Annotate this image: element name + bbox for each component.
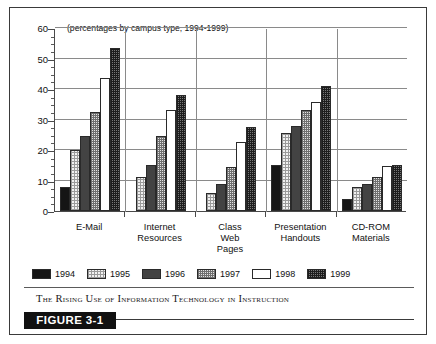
legend-label: 1994: [55, 270, 75, 279]
bar: [206, 193, 216, 211]
bar-group: [196, 28, 266, 211]
y-axis-minor-tick: [51, 44, 55, 45]
category-label-line: Pages: [195, 244, 265, 255]
y-axis-minor-tick: [51, 136, 55, 137]
x-axis-tick: [195, 212, 196, 217]
x-axis-category-label: PresentationHandouts: [265, 222, 335, 244]
legend-item[interactable]: 1994: [32, 269, 75, 279]
y-axis-minor-tick: [51, 98, 55, 99]
y-axis-minor-tick: [51, 82, 55, 83]
bar: [392, 165, 402, 211]
y-axis-tick: [48, 90, 54, 91]
y-axis-tick: [48, 151, 54, 152]
y-axis-minor-tick: [51, 113, 55, 114]
bar: [291, 126, 301, 211]
legend-divider: [24, 287, 414, 288]
y-axis-minor-tick: [51, 75, 55, 76]
bar-group-bars: [266, 28, 336, 211]
bar: [281, 133, 291, 211]
bar: [382, 166, 392, 211]
bar: [216, 184, 226, 211]
legend-label: 1996: [165, 270, 185, 279]
bar-group: [266, 28, 336, 211]
legend-swatch: [252, 269, 271, 279]
legend-label: 1997: [220, 270, 240, 279]
legend-item[interactable]: 1995: [87, 269, 130, 279]
y-axis-tick-label: 10: [22, 177, 48, 187]
category-label-line: Handouts: [265, 233, 335, 244]
category-label-line: Materials: [336, 233, 406, 244]
category-label-line: Resources: [124, 233, 194, 244]
y-axis-tick: [48, 182, 54, 183]
category-label-line: CD-ROM: [336, 222, 406, 233]
y-axis-minor-tick: [51, 37, 55, 38]
x-axis-category-label: E-Mail: [54, 222, 124, 233]
badge-rule: [116, 319, 414, 320]
bar: [156, 136, 166, 211]
category-label-line: Internet: [124, 222, 194, 233]
y-axis-minor-tick: [51, 174, 55, 175]
bar: [110, 48, 120, 211]
chart-legend: 199419951996199719981999: [32, 266, 410, 282]
bar: [301, 110, 311, 211]
figure-number-badge: FIGURE 3-1: [24, 312, 116, 329]
bar-group-bars: [196, 28, 266, 211]
bar-group-bars: [125, 28, 195, 211]
bar: [90, 112, 100, 211]
bar: [352, 187, 362, 211]
bar: [70, 150, 80, 211]
legend-item[interactable]: 1999: [307, 269, 350, 279]
legend-item[interactable]: 1997: [197, 269, 240, 279]
legend-label: 1995: [110, 270, 130, 279]
y-axis-tick: [48, 60, 54, 61]
bar: [226, 167, 236, 211]
y-axis-tick-label: 40: [22, 85, 48, 95]
bar-group: [55, 28, 125, 211]
legend-label: 1998: [275, 270, 295, 279]
figure-caption: The Rising Use of Information Technology…: [36, 293, 416, 305]
y-axis-minor-tick: [51, 189, 55, 190]
y-axis-tick-label: 50: [22, 55, 48, 65]
y-axis-minor-tick: [51, 105, 55, 106]
legend-item[interactable]: 1998: [252, 269, 295, 279]
bar: [176, 95, 186, 211]
x-axis-category-label: InternetResources: [124, 222, 194, 244]
category-label-line: Presentation: [265, 222, 335, 233]
y-axis-minor-tick: [51, 67, 55, 68]
bar: [80, 136, 90, 211]
y-axis-minor-tick: [51, 128, 55, 129]
legend-label: 1999: [330, 270, 350, 279]
y-axis-tick-label: 0: [22, 207, 48, 217]
legend-swatch: [197, 269, 216, 279]
bar: [271, 165, 281, 211]
legend-swatch: [87, 269, 106, 279]
bar-group: [125, 28, 195, 211]
bar: [166, 110, 176, 211]
category-label-line: Web: [195, 233, 265, 244]
y-axis-minor-tick: [51, 159, 55, 160]
bar: [60, 187, 70, 211]
bar: [362, 184, 372, 211]
legend-swatch: [32, 269, 51, 279]
bar: [321, 86, 331, 211]
bar: [236, 142, 246, 211]
y-axis-tick-label: 20: [22, 146, 48, 156]
x-axis-category-label: CD-ROMMaterials: [336, 222, 406, 244]
y-axis-tick-label: 60: [22, 24, 48, 34]
legend-swatch: [142, 269, 161, 279]
y-axis-tick: [48, 121, 54, 122]
chart-region: (percentages by campus type, 1994-1999) …: [10, 8, 428, 263]
y-axis-minor-tick: [51, 197, 55, 198]
y-axis-tick: [48, 212, 54, 213]
bar-group-bars: [55, 28, 125, 211]
figure-card: (percentages by campus type, 1994-1999) …: [9, 7, 427, 335]
y-axis-minor-tick: [51, 204, 55, 205]
bar-group-bars: [337, 28, 407, 211]
x-axis-tick: [124, 212, 125, 217]
category-label-line: E-Mail: [54, 222, 124, 233]
legend-swatch: [307, 269, 326, 279]
bar: [342, 199, 352, 211]
x-axis-category-label: ClassWebPages: [195, 222, 265, 255]
plot-area: [54, 29, 406, 212]
legend-item[interactable]: 1996: [142, 269, 185, 279]
